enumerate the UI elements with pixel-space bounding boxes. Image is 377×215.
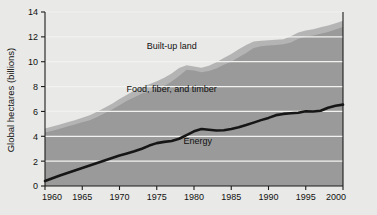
y-tick-label-8: 8 (33, 82, 38, 92)
y-tick-label-12: 12 (28, 32, 38, 42)
x-tick-label-1985: 1985 (221, 192, 241, 202)
y-tick-label-0: 0 (33, 181, 38, 191)
y-tick-label-14: 14 (28, 7, 38, 17)
y-tick-label-6: 6 (33, 107, 38, 117)
x-tick-label-1965: 1965 (72, 192, 92, 202)
y-tick-label-10: 10 (28, 57, 38, 67)
annotation-food-fiber-and-timber: Food, fiber, and timber (127, 84, 217, 94)
x-tick-label-1980: 1980 (184, 192, 204, 202)
x-tick-label-1960: 1960 (42, 192, 62, 202)
x-tick-label-1975: 1975 (147, 192, 167, 202)
annotation-energy: Energy (183, 136, 212, 146)
x-tick-label-2000: 2000 (326, 192, 346, 202)
y-tick-label-4: 4 (33, 132, 38, 142)
x-tick-label-1970: 1970 (109, 192, 129, 202)
x-tick-label-1990: 1990 (258, 192, 278, 202)
y-axis-title: Global hectares (billions) (5, 48, 16, 153)
y-tick-label-2: 2 (33, 157, 38, 167)
global-hectares-area-chart: 0246810121419601965197019751980198519901… (0, 0, 377, 215)
x-tick-label-1995: 1995 (296, 192, 316, 202)
annotation-built-up-land: Built-up land (147, 41, 197, 51)
chart-container: 0246810121419601965197019751980198519901… (0, 0, 377, 215)
